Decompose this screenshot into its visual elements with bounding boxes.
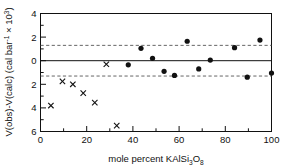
x-tick-label-60: 60	[174, 134, 185, 145]
data-point-circle-7	[208, 58, 213, 63]
y-axis-title: V(obs)-V(calc) (cal bar-1 × 103)	[3, 7, 14, 136]
data-point-circle-4	[172, 73, 177, 78]
x-tick-label-40: 40	[128, 134, 139, 145]
data-point-circle-2	[150, 56, 155, 61]
data-point-circle-10	[257, 37, 262, 42]
data-point-circle-5	[185, 39, 190, 44]
x-tick-label-80: 80	[220, 134, 231, 145]
data-point-circle-8	[232, 45, 237, 50]
y-tick-label-4: 4	[31, 102, 36, 113]
x-tick-label-20: 20	[81, 134, 92, 145]
data-point-circle-6	[196, 66, 201, 71]
data-point-circle-1	[138, 46, 143, 51]
x-tick-label-100: 100	[264, 134, 280, 145]
y-tick-label-0: 4	[31, 8, 36, 19]
figure-container: 020406080100 420246 mole percent KAlSi3O…	[0, 0, 292, 168]
data-point-circle-9	[245, 75, 250, 80]
data-point-circle-3	[161, 69, 166, 74]
y-tick-label-1: 2	[31, 32, 36, 43]
y-tick-label-3: 2	[31, 79, 36, 90]
data-point-circle-0	[126, 62, 131, 67]
data-point-circle-11	[269, 70, 274, 75]
scatter-chart: 020406080100 420246 mole percent KAlSi3O…	[0, 0, 292, 168]
y-tick-label-5: 6	[31, 126, 36, 137]
x-tick-label-0: 0	[38, 134, 43, 145]
y-tick-label-2: 0	[31, 55, 36, 66]
